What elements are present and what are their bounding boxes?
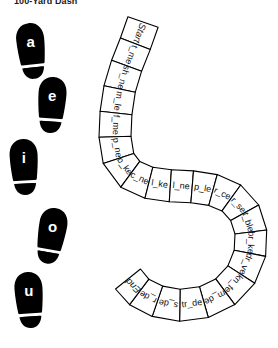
footprint-vowel-label: u — [24, 282, 33, 299]
race-track: Startt_mesh_nem_lef_mep_neb_kec_nel_kel_… — [99, 17, 267, 322]
worksheet-graphic: Startt_mesh_nem_lef_mep_neb_kec_nel_kel_… — [0, 0, 278, 348]
footprint-vowel-label: o — [48, 218, 57, 235]
footprint-vowel-label: i — [22, 149, 26, 166]
footprint-vowel-label: a — [26, 33, 35, 50]
shoe-heel — [14, 183, 37, 196]
footprint-shoe-icon[interactable]: e — [36, 76, 68, 134]
shoe-heel — [22, 66, 45, 80]
worksheet-canvas: 100-Yard Dash Startt_mesh_nem_lef_mep_ne… — [0, 0, 278, 348]
footprint-shoe-icon[interactable]: o — [33, 206, 70, 266]
track-segment-label: l_ne — [172, 180, 190, 191]
footprint-vowel-label: e — [48, 87, 56, 104]
shoe-heel — [39, 121, 62, 134]
track-segment-label: br_ke — [246, 231, 257, 254]
footprint-shoe-icon[interactable]: i — [9, 138, 40, 195]
footprint-shoe-icon[interactable]: a — [15, 22, 49, 81]
footprint-group: aeiou — [9, 22, 70, 329]
track-segment-label: f_me — [111, 115, 122, 135]
footprint-shoe-icon[interactable]: u — [13, 271, 45, 329]
shoe-heel — [19, 316, 42, 329]
